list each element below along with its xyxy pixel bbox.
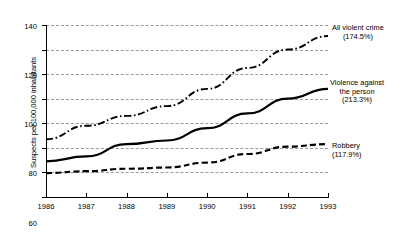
x-axis-line: [46, 197, 328, 198]
series-label-line2: (117.9%): [332, 151, 361, 160]
series-lines: [46, 25, 328, 197]
x-tick-label: 1991: [239, 202, 256, 211]
x-tick-label: 1989: [158, 202, 175, 211]
x-tick-label: 1987: [78, 202, 95, 211]
plot-area: 020406080100120140 198619871988198919901…: [46, 25, 328, 197]
series-label-violence-against-the-person: Violence against the person (213.3%): [330, 79, 384, 105]
x-tick-label: 1988: [118, 202, 135, 211]
series-label-all-violent-crime: All violent crime (174.5%): [332, 24, 384, 41]
y-tick-label: 120: [24, 71, 37, 80]
x-tick-label: 1990: [199, 202, 216, 211]
y-tick-label: 100: [24, 120, 37, 129]
y-tick-label: 80: [29, 169, 37, 178]
series-label-line2: (174.5%): [332, 33, 384, 42]
y-axis-title: Suspects per 100,000 inhabitants: [29, 18, 38, 208]
y-tick-label: 60: [29, 218, 37, 227]
chart-figure: Suspects per 100,000 inhabitants 0204060…: [0, 0, 408, 232]
x-tick-label: 1993: [320, 202, 337, 211]
x-tick-label: 1992: [279, 202, 296, 211]
x-tick-mark: [328, 193, 329, 198]
series-label-line3: (213.3%): [330, 96, 384, 105]
x-tick-label: 1986: [38, 202, 55, 211]
series-line-all-violent-crime: [46, 36, 328, 139]
y-tick-label: 140: [24, 22, 37, 31]
series-line-robbery: [46, 144, 328, 173]
series-label-robbery: Robbery (117.9%): [332, 142, 361, 159]
